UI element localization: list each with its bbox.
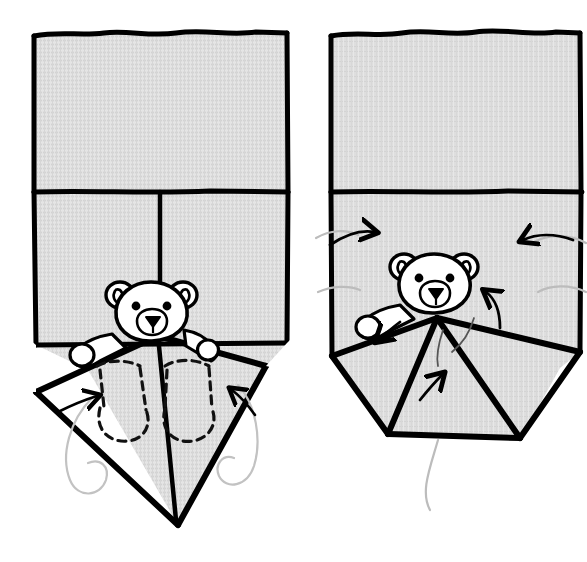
clip-white-left <box>30 340 36 392</box>
blanket-right-edge-mid-left <box>287 192 288 343</box>
bear-right-eye-right <box>446 274 455 283</box>
fabric-fill-right <box>331 33 580 440</box>
panel-right <box>316 31 586 510</box>
blanket-left-edge-mid-left <box>34 192 36 345</box>
bear-right-paw <box>198 340 219 360</box>
panel-left <box>30 32 292 525</box>
ghost-fold-path-center <box>426 440 438 510</box>
blanket-top-edge-right <box>331 31 580 36</box>
swaddle-steps-illustration <box>0 0 587 562</box>
bear-left-paw-right <box>356 316 380 338</box>
bear-right-eye <box>163 302 172 311</box>
blanket-right-edge-mid-right <box>580 192 581 352</box>
ghost-fold-path-left <box>66 398 107 494</box>
horizontal-fold-line-right <box>331 191 582 192</box>
blanket-right-edge-upper-left <box>287 33 288 192</box>
bear-left-eye <box>132 302 141 311</box>
right-leg-inner-dash <box>165 370 167 408</box>
illustration-canvas: Swaddling a teddy bear - blanket folding… <box>0 0 587 562</box>
blanket-right-edge-upper-right <box>580 33 581 192</box>
blanket-left-edge-mid-right <box>331 192 332 356</box>
fold-up-arrow-left <box>58 396 97 412</box>
lower-edge-bottom-right <box>388 434 520 438</box>
bear-left-paw <box>70 344 94 366</box>
bear-left-eye-right <box>415 274 424 283</box>
lower-flap-top-edge-left <box>36 343 287 345</box>
